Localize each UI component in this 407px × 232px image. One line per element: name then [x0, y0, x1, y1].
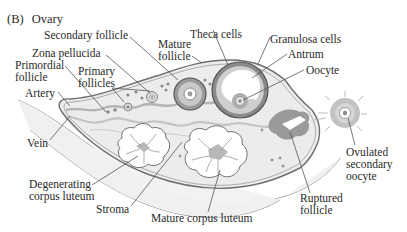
label-zona-pellucida: Zona pellucida — [32, 47, 101, 59]
label-antrum: Antrum — [288, 48, 324, 60]
title-text: Ovary — [32, 12, 63, 26]
label-stroma: Stroma — [96, 203, 129, 215]
label-degenerating-corpus-luteum: Degenerating corpus luteum — [29, 178, 94, 202]
secondary-follicle — [174, 78, 206, 110]
label-artery: Artery — [25, 87, 55, 99]
figure-title: (B) Ovary — [7, 13, 63, 25]
label-ruptured-follicle: Ruptured follicle — [300, 192, 343, 216]
label-ovulated-secondary-oocyte: Ovulated secondary oocyte — [346, 146, 393, 182]
mature-follicle — [212, 62, 268, 118]
label-primary-follicles: Primary follicles — [78, 65, 115, 89]
label-secondary-follicle: Secondary follicle — [44, 29, 128, 41]
mature-corpus-luteum — [184, 126, 247, 178]
panel-label: (B) — [7, 12, 24, 26]
label-granulosa-cells: Granulosa cells — [270, 33, 341, 45]
label-oocyte: Oocyte — [306, 64, 339, 76]
label-primordial-follicle: Primordial follicle — [15, 59, 64, 83]
label-mature-corpus-luteum: Mature corpus luteum — [151, 212, 253, 224]
label-mature-follicle: Mature follicle — [158, 38, 191, 62]
ovulated-oocyte — [314, 91, 367, 131]
label-vein: Vein — [27, 137, 48, 149]
label-theca-cells: Theca cells — [190, 28, 242, 40]
degenerating-corpus-luteum — [118, 124, 170, 168]
ovary-diagram: (B) Ovary Secondary follicle Zona pelluc… — [0, 0, 407, 232]
